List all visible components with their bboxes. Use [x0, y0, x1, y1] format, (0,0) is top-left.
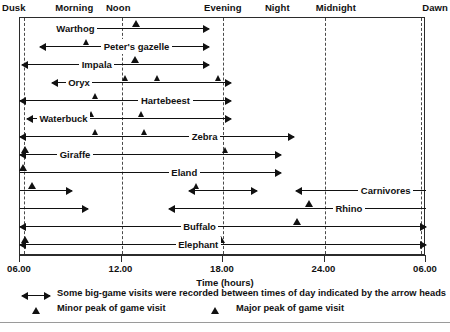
major-peak-marker	[293, 218, 301, 225]
series-label-warthog: Warthog	[54, 21, 97, 36]
arrowhead-right-icon	[225, 115, 232, 123]
arrowhead-right-icon	[66, 187, 73, 195]
x-tick-label: 24.00	[312, 263, 336, 274]
chart-root: DuskMorningNoonEveningNightMidnightDawn …	[0, 0, 450, 332]
top-axis-label-noon: Noon	[106, 2, 131, 13]
range-segment	[189, 190, 257, 191]
legend-label-arrow: Some big-game visits were recorded betwe…	[57, 288, 446, 298]
minor-peak-marker	[92, 93, 98, 99]
legend-label-major-peak: Major peak of game visit	[236, 303, 344, 313]
arrowhead-right-icon	[225, 97, 232, 105]
series-row: Oryx	[20, 73, 424, 91]
range-segment	[20, 208, 88, 209]
arrowhead-right-icon	[82, 205, 89, 213]
chart-legend: Some big-game visits were recorded betwe…	[0, 288, 450, 318]
arrowhead-left-icon	[26, 115, 33, 123]
series-row: Waterbuck	[20, 109, 424, 127]
series-row: Buffalo	[20, 217, 424, 235]
minor-peak-marker	[92, 129, 98, 135]
series-label-hartebeest: Hartebeest	[138, 93, 192, 108]
series-row: Rhino	[20, 199, 424, 217]
major-peak-marker	[305, 200, 313, 207]
series-label-giraffe: Giraffe	[57, 147, 93, 162]
top-axis-label-midnight: Midnight	[316, 2, 356, 13]
arrowhead-right-icon	[420, 223, 427, 231]
range-segment	[20, 172, 281, 173]
x-tick	[425, 255, 426, 262]
x-tick	[19, 255, 20, 262]
range-segment	[20, 136, 294, 137]
x-tick-label: 06.00	[413, 263, 437, 274]
arrowhead-right-icon	[203, 25, 210, 33]
arrowhead-right-icon	[420, 241, 427, 249]
series-label-oryx: Oryx	[66, 75, 93, 90]
x-tick-label: 18.00	[210, 263, 234, 274]
top-axis-label-night: Night	[265, 2, 290, 13]
series-row: Elephant	[20, 235, 424, 253]
arrowhead-left-icon	[295, 187, 302, 195]
series-label-waterbuck: Waterbuck	[37, 111, 90, 126]
series-label-buffalo: Buffalo	[181, 219, 219, 234]
series-row: Carnivores	[20, 181, 424, 199]
range-segment	[20, 100, 231, 101]
top-axis-label-morning: Morning	[55, 2, 93, 13]
series-row: Peter's gazelle	[20, 37, 424, 55]
legend-row-peaks: Minor peak of game visit Major peak of g…	[0, 303, 450, 318]
arrowhead-left-icon	[168, 205, 175, 213]
range-segment	[20, 226, 426, 227]
minor-peak-marker	[138, 111, 144, 117]
major-peak-marker	[132, 20, 140, 27]
x-tick	[121, 255, 122, 262]
top-axis-label-dusk: Dusk	[2, 2, 26, 13]
x-tick	[222, 255, 223, 262]
arrowhead-right-icon	[251, 187, 258, 195]
series-label-zebra: Zebra	[189, 129, 220, 144]
arrowhead-right-icon	[288, 133, 295, 141]
minor-peak-marker	[122, 75, 128, 81]
bottom-divider	[0, 322, 450, 323]
minor-peak-marker	[141, 129, 147, 135]
arrowhead-right-icon	[203, 61, 210, 69]
range-segment	[20, 244, 426, 245]
major-peak-marker	[19, 164, 27, 171]
major-peak-marker	[28, 182, 36, 189]
series-label-impala: Impala	[79, 57, 114, 72]
arrowhead-right-icon	[225, 79, 232, 87]
series-label-eland: Eland	[169, 165, 200, 180]
minor-peak-triangle-icon	[32, 307, 40, 314]
series-row: Warthog	[20, 19, 424, 37]
arrowhead-right-icon	[275, 151, 282, 159]
x-tick-label: 06.00	[7, 263, 31, 274]
series-row: Zebra	[20, 127, 424, 145]
series-row: Giraffe	[20, 145, 424, 163]
series-row: Hartebeest	[20, 91, 424, 109]
arrowhead-right-icon	[203, 43, 210, 51]
series-row: Eland	[20, 163, 424, 181]
arrowhead-left-icon	[19, 133, 26, 141]
minor-peak-marker	[215, 75, 221, 81]
range-segment	[169, 208, 426, 209]
series-label-carnivores: Carnivores	[358, 183, 413, 198]
range-segment	[22, 64, 210, 65]
minor-peak-marker	[222, 147, 228, 153]
series-row: Impala	[20, 55, 424, 73]
minor-peak-marker	[83, 39, 89, 45]
major-peak-marker	[21, 236, 29, 243]
arrowhead-left-icon	[51, 79, 58, 87]
minor-peak-marker	[193, 183, 199, 189]
plot-area: WarthogPeter's gazelleImpalaOryxHartebee…	[19, 17, 425, 255]
major-peak-marker	[131, 56, 139, 63]
x-tick	[324, 255, 325, 262]
x-tick-label: 12.00	[109, 263, 133, 274]
double-arrow-icon	[22, 295, 50, 296]
x-axis-title: Time (hours)	[0, 277, 450, 288]
major-peak-marker	[21, 146, 29, 153]
arrowhead-left-icon	[19, 223, 26, 231]
legend-row-arrow: Some big-game visits were recorded betwe…	[0, 288, 450, 303]
series-label-peter-s-gazelle: Peter's gazelle	[101, 39, 172, 54]
arrowhead-left-icon	[21, 61, 28, 69]
series-label-rhino: Rhino	[333, 201, 365, 216]
major-peak-triangle-icon	[211, 307, 219, 314]
range-segment	[20, 190, 72, 191]
arrowhead-right-icon	[275, 169, 282, 177]
